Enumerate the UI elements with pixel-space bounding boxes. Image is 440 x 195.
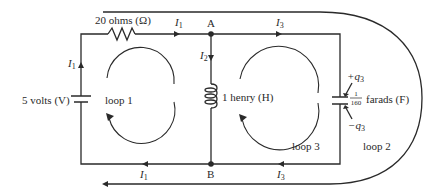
current-i1-bottom-label: I1 [139,168,148,182]
inductor-coil [205,84,217,108]
current-i1-left-label: I1 [67,57,76,71]
arrow-i2 [208,55,214,61]
minus-q-pointer [346,108,352,119]
voltage-label: 5 volts (V) [22,94,70,107]
current-i3-bottom-label: I3 [276,168,285,182]
loop-1-label: loop 1 [105,94,133,106]
arrow-i1-left [78,62,84,68]
loop-3-arrowhead [239,114,247,122]
circuit-diagram: 20 ohms (Ω) 5 volts (V) 1 henry (H) 1 16… [0,0,440,195]
capacitor-fraction-denominator: 160 [351,99,362,107]
node-a-dot [208,31,214,37]
wire-top-left [81,34,108,60]
loop-1-arc-top [107,47,174,84]
node-b-dot [208,161,214,167]
plus-q-pointer [346,83,352,94]
capacitor-fraction-numerator: 1 [354,90,358,98]
loop-3-label: loop 3 [292,140,320,152]
node-b-label: B [207,168,214,180]
minus-q-pointer-head [343,105,349,109]
arrow-i1-top [174,31,180,37]
node-a-label: A [207,17,215,29]
capacitor-unit-label: farads (F) [366,93,409,106]
plus-q3-label: +q3 [347,70,364,84]
current-i2-label: I2 [199,49,208,63]
inductor-label: 1 henry (H) [222,91,274,104]
loop-1-arc-bottom [109,102,175,143]
arrow-i3-bottom [278,161,284,167]
current-i3-top-label: I3 [275,16,284,30]
arrow-i1-bottom [142,161,148,167]
resistor-symbol [108,28,135,40]
current-i1-top-label: I1 [174,16,183,30]
minus-q3-label: −q3 [348,119,365,133]
loop-2-label: loop 2 [363,140,391,152]
resistor-label: 20 ohms (Ω) [95,14,151,27]
arrow-i3-top [276,31,282,37]
loop-3-arc-top [240,46,319,93]
wire-top-right [135,34,340,97]
